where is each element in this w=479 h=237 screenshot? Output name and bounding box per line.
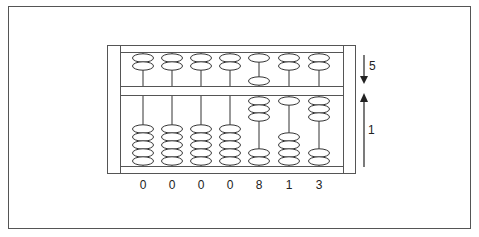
upper-arrow-label: 5 (369, 59, 376, 73)
upper-bead (220, 62, 241, 70)
lower-bead (162, 157, 183, 165)
abacus-column (191, 53, 212, 166)
abacus-column (133, 53, 154, 166)
upper-bead (249, 54, 270, 62)
lower-bead (279, 133, 300, 141)
upper-bead (133, 54, 154, 62)
upper-bead (162, 54, 183, 62)
upper-bead (220, 54, 241, 62)
lower-bead (191, 141, 212, 149)
lower-bead (279, 141, 300, 149)
abacus-column (220, 53, 241, 166)
lower-bead (249, 157, 270, 165)
upper-bead (191, 62, 212, 70)
upper-bead (279, 62, 300, 70)
lower-bead (220, 149, 241, 157)
abacus-column (309, 53, 330, 166)
abacus-column (249, 53, 270, 166)
abacus (108, 45, 356, 174)
upper-bead (133, 62, 154, 70)
lower-bead (133, 133, 154, 141)
abacus-diagram: 0000813 5 1 (0, 0, 479, 237)
upper-bead (309, 54, 330, 62)
lower-bead-active (309, 113, 330, 121)
upper-bead (309, 62, 330, 70)
lower-bead (249, 149, 270, 157)
lower-bead (191, 157, 212, 165)
column-digit: 3 (316, 178, 323, 192)
abacus-column (162, 53, 183, 166)
upper-bead-active (249, 77, 270, 85)
upper-bead (191, 54, 212, 62)
lower-bead (191, 125, 212, 133)
lower-bead-active (249, 97, 270, 105)
lower-bead (162, 141, 183, 149)
upper-arrow (360, 55, 368, 84)
column-digit: 8 (256, 178, 263, 192)
column-digit: 0 (227, 178, 234, 192)
lower-bead (191, 133, 212, 141)
lower-bead (133, 149, 154, 157)
lower-bead (133, 125, 154, 133)
lower-bead (133, 157, 154, 165)
lower-bead (220, 157, 241, 165)
lower-arrow-label: 1 (368, 123, 375, 137)
lower-bead-active (279, 97, 300, 105)
lower-bead (191, 149, 212, 157)
lower-bead (220, 141, 241, 149)
column-digit: 0 (140, 178, 147, 192)
lower-bead (279, 149, 300, 157)
lower-bead (309, 149, 330, 157)
lower-bead-active (309, 105, 330, 113)
upper-bead (162, 62, 183, 70)
lower-bead (133, 141, 154, 149)
lower-bead-active (309, 97, 330, 105)
lower-bead (162, 149, 183, 157)
arrow-up-icon (360, 93, 368, 102)
outer-border (9, 7, 471, 229)
column-digit: 0 (198, 178, 205, 192)
lower-bead (162, 133, 183, 141)
lower-bead (279, 157, 300, 165)
lower-bead-active (249, 113, 270, 121)
upper-bead (279, 54, 300, 62)
column-digit: 1 (286, 178, 293, 192)
lower-bead (220, 125, 241, 133)
column-digit: 0 (169, 178, 176, 192)
lower-bead-active (249, 105, 270, 113)
lower-bead (309, 157, 330, 165)
lower-arrow (360, 93, 368, 167)
lower-bead (162, 125, 183, 133)
lower-bead (220, 133, 241, 141)
arrow-down-icon (360, 76, 368, 84)
abacus-column (279, 53, 300, 166)
digit-labels: 0000813 (140, 178, 323, 192)
